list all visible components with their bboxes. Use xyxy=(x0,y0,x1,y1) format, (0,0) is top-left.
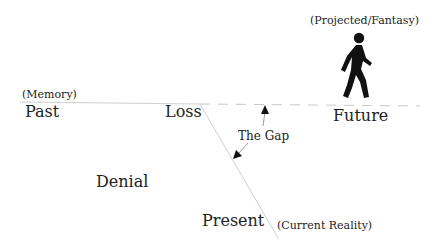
past-note: (Memory) xyxy=(22,89,77,100)
loss-label: Loss xyxy=(165,104,202,120)
gap-arrow-up xyxy=(263,112,265,126)
present-note: (Current Reality) xyxy=(277,220,372,231)
future-label: Future xyxy=(333,108,388,124)
future-note: (Projected/Fantasy) xyxy=(310,15,419,26)
gap-arrow-up-head xyxy=(261,105,269,114)
denial-label: Denial xyxy=(96,174,148,190)
gap-arrow-down xyxy=(238,143,248,154)
walking-person-icon xyxy=(341,33,372,98)
past-label: Past xyxy=(25,104,59,120)
present-label: Present xyxy=(202,213,264,229)
gap-label: The Gap xyxy=(238,130,289,142)
